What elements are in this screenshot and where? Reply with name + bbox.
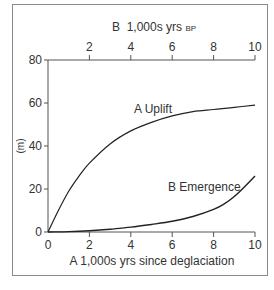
y-tick-label: 20 (29, 182, 43, 196)
chart: 2 4 6 8 10 B 1,000s yrs BP 0 20 40 60 80… (0, 0, 274, 290)
x-tick-label: 2 (86, 238, 93, 252)
x-tick-label: 8 (210, 238, 217, 252)
y-tick-label: 40 (29, 139, 43, 153)
annotation-emergence: B Emergence (168, 180, 241, 194)
y-axis-ticks: 0 20 40 60 80 (29, 53, 48, 239)
x-tick-label: 0 (45, 238, 52, 252)
top-tick-label: 8 (210, 40, 217, 54)
top-axis-title: B 1,000s yrs BP (112, 20, 196, 34)
top-tick-label: 2 (86, 40, 93, 54)
top-tick-label: 10 (248, 40, 262, 54)
x-axis-title: A 1,000s yrs since deglaciation (70, 254, 235, 268)
y-tick-label: 0 (35, 225, 42, 239)
top-axis-ticks: 2 4 6 8 10 (86, 40, 262, 60)
x-axis-ticks: 0 2 4 6 8 10 (45, 232, 262, 252)
top-tick-label: 4 (127, 40, 134, 54)
top-tick-label: 6 (169, 40, 176, 54)
x-tick-label: 10 (248, 238, 262, 252)
series-uplift-line (48, 105, 255, 232)
x-tick-label: 4 (127, 238, 134, 252)
y-tick-label: 80 (29, 53, 43, 67)
annotation-uplift: A Uplift (134, 102, 173, 116)
x-tick-label: 6 (169, 238, 176, 252)
y-tick-label: 60 (29, 96, 43, 110)
y-axis-title: (m) (15, 139, 26, 154)
